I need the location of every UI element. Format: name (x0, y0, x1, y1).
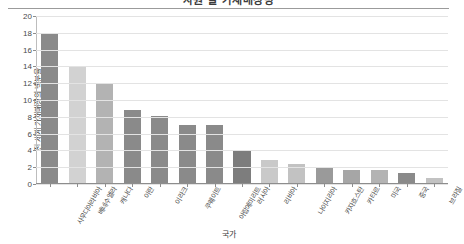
bar (261, 160, 278, 183)
gridline (36, 117, 448, 118)
bar (398, 173, 415, 183)
bar (343, 170, 360, 183)
x-tick-label: 리비아 (281, 185, 299, 206)
y-tick-mark (33, 150, 36, 151)
bar (426, 178, 443, 183)
y-tick-label: 12 (23, 79, 32, 88)
y-tick-mark (33, 134, 36, 135)
y-tick-mark (33, 100, 36, 101)
x-tick-label: 캐나다 (117, 185, 135, 206)
bar (371, 170, 388, 183)
x-tick-label: 브라질 (446, 185, 464, 206)
bar (316, 167, 333, 183)
x-tick-label: 나이지리아 (315, 185, 339, 216)
y-tick-label: 10 (23, 96, 32, 105)
y-tick-mark (33, 16, 36, 17)
chart-title: 자원 별 가채매장량 (0, 0, 457, 7)
gridline (36, 167, 448, 168)
gridline (36, 134, 448, 135)
gridline (36, 150, 448, 151)
y-tick-label: 2 (28, 163, 32, 172)
x-tick-label: 중국 (416, 185, 431, 200)
x-tick-label: 이라크 (172, 185, 190, 206)
y-tick-mark (33, 66, 36, 67)
gridline (36, 83, 448, 84)
y-tick-label: 8 (28, 112, 32, 121)
y-tick-label: 0 (28, 180, 32, 189)
bar (41, 33, 58, 183)
y-tick-mark (33, 83, 36, 84)
y-tick-label: 6 (28, 129, 32, 138)
x-tick-label: 카타르 (364, 185, 382, 206)
x-tick-label: 이란 (141, 185, 156, 200)
gridline (36, 100, 448, 101)
y-tick-mark (33, 167, 36, 168)
y-tick-label: 14 (23, 62, 32, 71)
gridline (36, 50, 448, 51)
x-axis-tick-labels: 사우디아라비아베네수엘라캐나다이란이라크쿠웨이트아랍에미리트러시아리비아나이지리… (36, 185, 448, 229)
y-tick-mark (33, 117, 36, 118)
title-divider (8, 8, 449, 9)
x-axis-title: 국가 (0, 228, 457, 239)
gridline (36, 16, 448, 17)
bar (124, 110, 141, 183)
x-tick-label: 카자흐스탄 (342, 185, 366, 216)
y-tick-label: 20 (23, 12, 32, 21)
y-tick-label: 18 (23, 28, 32, 37)
gridline (36, 66, 448, 67)
x-tick-label: 미국 (388, 185, 403, 200)
y-tick-mark (33, 50, 36, 51)
x-tick-label: 쿠웨이트 (202, 185, 223, 211)
bar (69, 67, 86, 183)
gridline (36, 33, 448, 34)
y-tick-mark (33, 33, 36, 34)
y-tick-label: 16 (23, 45, 32, 54)
y-tick-label: 4 (28, 146, 32, 155)
plot-area: 02468101214161820 (36, 16, 448, 184)
